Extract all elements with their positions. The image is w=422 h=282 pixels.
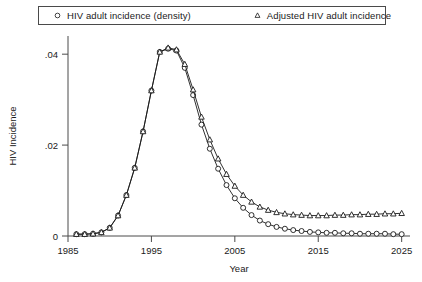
series-path — [76, 48, 401, 234]
data-point-circle — [299, 229, 304, 234]
data-point-circle — [349, 231, 354, 236]
data-point-circle — [216, 166, 221, 171]
data-point-circle — [357, 231, 362, 236]
data-point-circle — [249, 213, 254, 218]
series-triangle — [74, 45, 405, 237]
y-tick-label: 0 — [53, 231, 58, 242]
data-point-triangle — [257, 204, 263, 209]
y-tick-label: .04 — [45, 49, 58, 60]
data-point-circle — [307, 229, 312, 234]
x-tick-label: 1985 — [57, 245, 78, 256]
x-tick-label: 1995 — [141, 245, 162, 256]
series-path — [76, 49, 401, 234]
y-axis: 0.02.04 — [45, 36, 68, 242]
x-axis-title: Year — [229, 263, 248, 274]
data-point-circle — [274, 224, 279, 229]
x-axis: 19851995200520152025 — [57, 236, 412, 256]
data-point-circle — [316, 230, 321, 235]
data-point-circle — [282, 226, 287, 231]
data-point-circle — [332, 230, 337, 235]
data-point-triangle — [215, 156, 221, 161]
chart-figure: HIV adult incidence (density) Adjusted H… — [0, 0, 422, 282]
data-point-circle — [266, 222, 271, 227]
y-tick-label: .02 — [45, 140, 58, 151]
x-tick-label: 2025 — [391, 245, 412, 256]
chart-plot-area: 0.02.04 19851995200520152025 Year HIV In… — [0, 0, 422, 282]
data-point-circle — [224, 183, 229, 188]
x-tick-label: 2015 — [308, 245, 329, 256]
series-circle — [74, 46, 404, 236]
data-point-triangle — [207, 137, 213, 142]
data-point-circle — [207, 146, 212, 151]
data-point-circle — [366, 231, 371, 236]
data-point-circle — [232, 196, 237, 201]
data-point-circle — [391, 232, 396, 237]
data-point-triangle — [224, 171, 230, 176]
data-point-circle — [257, 218, 262, 223]
data-point-circle — [241, 205, 246, 210]
data-point-circle — [324, 230, 329, 235]
data-point-circle — [291, 228, 296, 233]
series-layer — [74, 45, 405, 237]
data-point-circle — [341, 231, 346, 236]
data-point-circle — [374, 231, 379, 236]
y-axis-title: HIV Incidence — [7, 106, 18, 165]
x-tick-label: 2005 — [224, 245, 245, 256]
data-point-circle — [382, 231, 387, 236]
data-point-circle — [399, 232, 404, 237]
